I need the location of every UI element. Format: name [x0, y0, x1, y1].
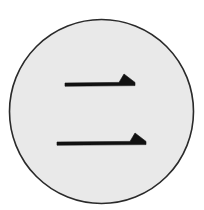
outer-circle [10, 20, 194, 204]
diagram-canvas [0, 0, 204, 210]
